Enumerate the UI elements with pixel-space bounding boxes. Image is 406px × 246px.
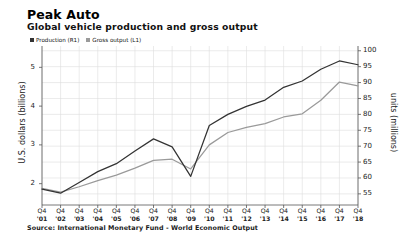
x-tick-year-12: '12	[236, 215, 256, 222]
x-tick-year-13: '13	[255, 215, 275, 222]
x-tick-quarter-13: Q4	[255, 207, 275, 214]
right-tick-80: 80	[363, 110, 381, 118]
x-tick-quarter-06: Q4	[125, 207, 145, 214]
x-tick-year-03: '03	[69, 215, 89, 222]
x-tick-year-18: '18	[348, 215, 368, 222]
x-tick-year-08: '08	[162, 215, 182, 222]
right-tick-70: 70	[363, 142, 381, 150]
left-tick-2: 2	[19, 179, 35, 187]
right-tick-85: 85	[363, 94, 381, 102]
right-tick-60: 60	[363, 173, 381, 181]
x-tick-quarter-14: Q4	[274, 207, 294, 214]
x-tick-quarter-03: Q4	[69, 207, 89, 214]
source-note: Source: International Monetary Fund - Wo…	[27, 224, 258, 232]
right-tick-95: 95	[363, 62, 381, 70]
right-tick-100: 100	[363, 46, 381, 54]
right-tick-55: 55	[363, 189, 381, 197]
x-tick-quarter-17: Q4	[329, 207, 349, 214]
x-tick-quarter-10: Q4	[199, 207, 219, 214]
x-tick-year-15: '15	[292, 215, 312, 222]
x-tick-quarter-09: Q4	[181, 207, 201, 214]
x-tick-year-04: '04	[88, 215, 108, 222]
x-tick-quarter-15: Q4	[292, 207, 312, 214]
x-tick-year-07: '07	[144, 215, 164, 222]
x-tick-year-09: '09	[181, 215, 201, 222]
x-tick-quarter-08: Q4	[162, 207, 182, 214]
x-tick-quarter-05: Q4	[106, 207, 126, 214]
x-tick-year-16: '16	[311, 215, 331, 222]
x-tick-quarter-16: Q4	[311, 207, 331, 214]
right-tick-90: 90	[363, 78, 381, 86]
x-tick-year-06: '06	[125, 215, 145, 222]
left-tick-3: 3	[19, 140, 35, 148]
x-tick-quarter-11: Q4	[218, 207, 238, 214]
series-line-production	[42, 61, 358, 193]
x-tick-quarter-02: Q4	[51, 207, 71, 214]
x-tick-year-14: '14	[274, 215, 294, 222]
x-tick-year-01: '01	[32, 215, 52, 222]
x-tick-quarter-04: Q4	[88, 207, 108, 214]
x-tick-quarter-07: Q4	[144, 207, 164, 214]
x-tick-quarter-01: Q4	[32, 207, 52, 214]
x-tick-year-05: '05	[106, 215, 126, 222]
chart-figure: Peak Auto Global vehicle production and …	[0, 0, 406, 246]
x-tick-quarter-18: Q4	[348, 207, 368, 214]
x-tick-year-11: '11	[218, 215, 238, 222]
x-tick-year-02: '02	[51, 215, 71, 222]
right-tick-75: 75	[363, 126, 381, 134]
right-tick-65: 65	[363, 158, 381, 166]
x-tick-quarter-12: Q4	[236, 207, 256, 214]
left-tick-4: 4	[19, 102, 35, 110]
left-tick-5: 5	[19, 63, 35, 71]
x-tick-year-10: '10	[199, 215, 219, 222]
x-tick-year-17: '17	[329, 215, 349, 222]
